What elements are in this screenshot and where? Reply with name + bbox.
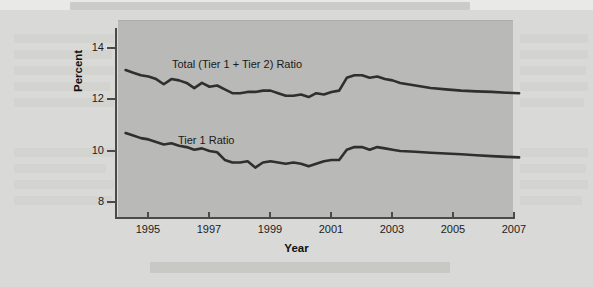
chart-lines <box>0 0 593 287</box>
series-line-total <box>126 70 519 97</box>
series-label-total: Total (Tier 1 + Tier 2) Ratio <box>172 58 302 70</box>
series-label-tier1: Tier 1 Ratio <box>178 134 234 146</box>
line-chart: 14 12 10 8 1995 1997 1999 2001 2003 2005… <box>0 0 593 287</box>
figure-page: 14 12 10 8 1995 1997 1999 2001 2003 2005… <box>0 0 593 287</box>
